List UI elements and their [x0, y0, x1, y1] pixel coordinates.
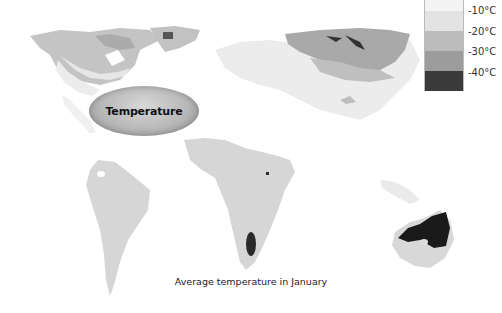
africa [184, 138, 295, 270]
map-caption: Average temperature in January [0, 276, 502, 287]
legend-label-minus30: -30°C [468, 46, 496, 57]
australia [392, 210, 454, 268]
southeast-asia-islands [380, 180, 420, 204]
legend-swatch-1 [424, 11, 464, 31]
legend-label-minus40: -40°C [468, 67, 496, 78]
eurasia [215, 28, 420, 120]
legend-swatch-2 [424, 31, 464, 51]
legend-swatch-3 [424, 51, 464, 71]
temperature-label-oval: Temperature [89, 86, 199, 136]
legend-label-minus10: -10°C [468, 5, 496, 16]
temperature-label: Temperature [106, 105, 183, 118]
legend-swatch-4 [424, 71, 464, 91]
legend-label-minus20: -20°C [468, 26, 496, 37]
